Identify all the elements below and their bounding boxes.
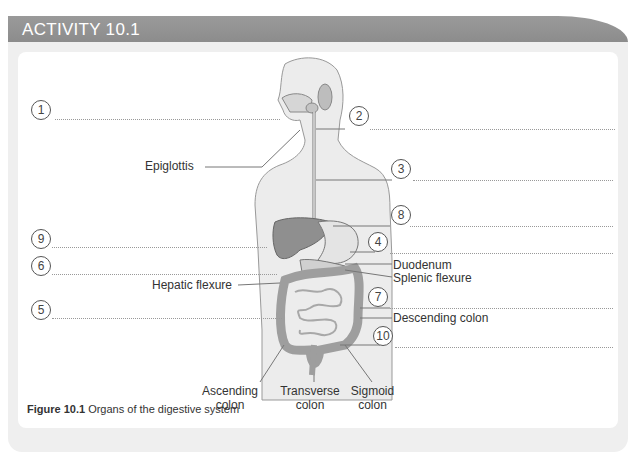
- marker-8: 8: [391, 205, 411, 225]
- marker-2: 2: [349, 106, 369, 126]
- answer-line-6[interactable]: [52, 274, 277, 275]
- answer-line-8[interactable]: [410, 226, 613, 227]
- marker-9: 9: [31, 229, 51, 249]
- label-duodenum: Duodenum: [393, 258, 452, 272]
- marker-4: 4: [368, 232, 388, 252]
- answer-line-2[interactable]: [370, 129, 615, 130]
- answer-line-5[interactable]: [52, 318, 282, 319]
- marker-3: 3: [391, 159, 411, 179]
- answer-line-1[interactable]: [55, 119, 280, 120]
- answer-line-9[interactable]: [52, 247, 267, 248]
- marker-6: 6: [31, 256, 51, 276]
- answer-line-3[interactable]: [413, 180, 613, 181]
- answer-line-10[interactable]: [395, 347, 613, 348]
- label-descending-colon: Descending colon: [393, 311, 488, 325]
- label-hepatic-flexure: Hepatic flexure: [152, 278, 232, 292]
- marker-7: 7: [368, 287, 388, 307]
- marker-1: 1: [31, 100, 51, 120]
- answer-line-7[interactable]: [390, 308, 613, 309]
- figure-caption-text: Organs of the digestive system: [85, 403, 239, 415]
- label-sigmoid-colon: Sigmoid colon: [345, 384, 400, 412]
- answer-line-4[interactable]: [390, 253, 613, 254]
- label-transverse-colon: Transverse colon: [280, 384, 340, 412]
- label-splenic-flexure: Splenic flexure: [393, 271, 472, 285]
- figure-caption-number: Figure 10.1: [27, 403, 85, 415]
- marker-5: 5: [31, 300, 51, 320]
- figure-caption: Figure 10.1 Organs of the digestive syst…: [27, 403, 239, 415]
- marker-10: 10: [373, 326, 393, 346]
- label-epiglottis: Epiglottis: [145, 159, 194, 173]
